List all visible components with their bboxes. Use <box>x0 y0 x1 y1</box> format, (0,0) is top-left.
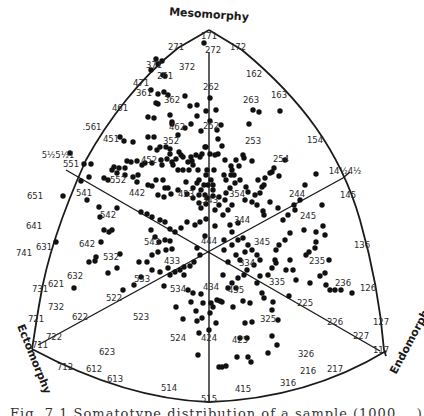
somatotype-label: 631 <box>36 242 52 252</box>
data-point <box>165 265 170 270</box>
data-point <box>248 359 253 364</box>
data-point <box>190 162 195 167</box>
data-point <box>313 171 318 176</box>
data-point <box>199 151 204 156</box>
data-point <box>320 223 325 228</box>
data-point <box>165 185 170 190</box>
somatotype-label: 471 <box>133 78 149 88</box>
data-point <box>249 319 254 324</box>
data-point <box>267 199 272 204</box>
data-point <box>136 259 141 264</box>
axis-title-mesomorphy: Mesomorphy <box>169 5 250 24</box>
data-point <box>170 162 175 167</box>
somatotype-label: 154 <box>307 135 323 145</box>
data-point <box>160 177 165 182</box>
data-point <box>261 295 266 300</box>
data-point <box>254 252 259 257</box>
data-point <box>101 227 106 232</box>
data-point <box>280 217 285 222</box>
somatotype-label: 252 <box>203 121 219 131</box>
data-point <box>84 197 89 202</box>
data-point <box>86 174 91 179</box>
data-point <box>270 299 275 304</box>
data-point <box>207 151 212 156</box>
somatotype-label: 452 <box>141 155 157 165</box>
data-point <box>249 247 254 252</box>
data-point <box>216 364 221 369</box>
data-point <box>135 172 140 177</box>
data-point <box>196 200 201 205</box>
data-point <box>81 161 86 166</box>
data-point <box>157 144 162 149</box>
axis-title-endomorphy: Endomorphy <box>387 301 424 376</box>
data-point <box>222 197 227 202</box>
data-point <box>168 191 173 196</box>
data-point <box>184 219 189 224</box>
data-point <box>134 179 139 184</box>
data-point <box>192 222 197 227</box>
data-point <box>220 212 225 217</box>
data-point <box>285 212 290 217</box>
data-point <box>223 190 228 195</box>
somatotype-label: 325 <box>260 314 276 324</box>
somatotype-label: 533 <box>134 274 150 284</box>
data-point <box>338 287 343 292</box>
somatotype-label: 254 <box>273 154 289 164</box>
data-point <box>167 112 172 117</box>
data-point <box>276 242 281 247</box>
somatotype-label: 415 <box>235 384 251 394</box>
data-point <box>242 249 247 254</box>
data-point <box>203 216 208 221</box>
data-point <box>213 320 218 325</box>
data-point <box>181 272 186 277</box>
somatotype-label: 171 <box>201 31 217 41</box>
data-point <box>200 300 205 305</box>
somatotype-label: 352 <box>163 136 179 146</box>
data-point <box>269 265 274 270</box>
data-point <box>78 178 83 183</box>
data-point <box>261 182 266 187</box>
data-point <box>313 239 318 244</box>
somatotype-label: 534 <box>170 284 186 294</box>
somatotype-label: 424 <box>201 333 217 343</box>
data-point <box>249 158 254 163</box>
data-point <box>194 102 199 107</box>
somatotype-label: 236 <box>335 278 351 288</box>
data-point <box>155 91 160 96</box>
somatotype-label: 271 <box>168 42 184 52</box>
data-point <box>196 192 201 197</box>
somatotype-label: 361 <box>136 88 152 98</box>
somatotype-label: 335 <box>269 277 285 287</box>
somatotype-label: 117 <box>373 345 389 355</box>
data-point <box>275 205 280 210</box>
data-point <box>182 93 187 98</box>
data-point <box>349 290 354 295</box>
data-point <box>151 115 156 120</box>
data-point <box>319 202 324 207</box>
data-point <box>187 263 192 268</box>
data-point <box>212 207 217 212</box>
somatotype-label: 622 <box>72 312 88 322</box>
data-point <box>242 320 247 325</box>
data-point <box>221 247 226 252</box>
somatotype-label: 136 <box>354 240 370 250</box>
somatotype-labels: 1712712721723713724712611623613622622631… <box>16 31 389 404</box>
data-point <box>60 193 65 198</box>
data-point <box>194 318 199 323</box>
data-point <box>130 139 135 144</box>
somatotype-label: 227 <box>353 331 369 341</box>
somatotype-label: 235 <box>309 256 325 266</box>
somatotype-label: 453 <box>178 189 194 199</box>
data-point <box>71 285 76 290</box>
data-point <box>257 273 262 278</box>
data-point <box>208 177 213 182</box>
data-point <box>208 300 213 305</box>
data-point <box>327 287 332 292</box>
data-point <box>233 252 238 257</box>
data-point <box>286 293 291 298</box>
data-point <box>149 267 154 272</box>
data-point <box>153 100 158 105</box>
somatotype-label: 641 <box>26 221 42 231</box>
data-point <box>206 327 211 332</box>
data-point <box>213 107 218 112</box>
